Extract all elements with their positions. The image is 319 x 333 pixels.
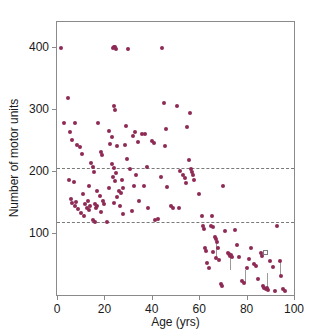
data-point [123,143,127,147]
data-point [125,157,129,161]
data-point [171,206,175,210]
data-point [221,184,225,188]
data-point [115,195,119,199]
data-point [223,229,227,233]
data-point [67,178,71,182]
data-point [93,220,97,224]
data-point [162,101,166,105]
data-point [215,240,219,244]
data-point-open [263,250,268,255]
data-point [81,192,85,196]
data-point [175,104,179,108]
data-point [78,145,82,149]
data-point [256,277,260,281]
data-point [230,255,234,259]
x-axis-tick-label: 80 [240,302,253,316]
data-point [128,167,132,171]
data-point [235,243,239,247]
data-point [112,166,116,170]
data-point [275,224,279,228]
y-axis-tick [52,233,57,234]
data-point [82,214,86,218]
data-point [92,170,96,174]
data-point [74,200,78,204]
data-point [80,152,84,156]
data-point [184,181,188,185]
data-point [160,46,164,50]
data-point [66,96,70,100]
data-point [115,144,119,148]
data-point [70,138,74,142]
data-point [249,246,253,250]
data-point [124,124,128,128]
x-axis-tick [104,295,105,300]
x-axis-tick-label: 0 [54,302,61,316]
data-point [266,288,270,292]
data-point [247,257,251,261]
data-point [110,135,114,139]
data-point [113,179,117,183]
data-point [118,204,122,208]
data-point [143,132,147,136]
data-point [210,214,214,218]
data-point [211,225,215,229]
data-point [105,220,109,224]
x-axis-tick-label: 100 [284,302,304,316]
data-point [211,250,215,254]
scatter-plot-figure: 100200300400020406080100 Age (yrs) Numbe… [0,0,319,333]
data-point [254,264,258,268]
data-point [136,140,140,144]
data-point [188,111,192,115]
data-point [159,175,163,179]
data-point [273,289,277,293]
data-point [142,184,146,188]
data-point [132,184,136,188]
y-axis-tick [52,47,57,48]
data-point [237,255,241,259]
data-point [164,127,168,131]
x-axis-tick [294,295,295,300]
data-point [204,249,208,253]
y-axis-tick-label: 400 [29,40,49,54]
data-point [185,125,189,129]
data-point [113,108,117,112]
x-axis-tick-label: 40 [145,302,158,316]
data-point [62,121,66,125]
plot-frame: 100200300400020406080100 [56,21,295,296]
data-point [220,284,224,288]
data-point [102,202,106,206]
data-point [200,214,204,218]
data-point [112,201,116,205]
data-point [86,199,90,203]
data-point [191,173,195,177]
data-point [108,142,112,146]
data-point [121,186,125,190]
data-point [152,141,156,145]
x-axis-tick-label: 20 [98,302,111,316]
data-point [271,265,275,269]
data-point [217,258,221,262]
plot-area [57,22,294,295]
data-point [121,212,125,216]
data-point [183,176,187,180]
data-point [233,228,237,232]
data-point [133,130,137,134]
data-point [202,227,206,231]
data-point [278,259,282,263]
data-point [137,199,141,203]
data-point [114,171,118,175]
x-axis-label: Age (yrs) [56,315,295,329]
data-point [156,217,160,221]
data-point [165,185,169,189]
data-point [119,191,123,195]
x-axis-tick-label: 60 [193,302,206,316]
data-point [279,274,283,278]
data-point [72,180,76,184]
y-axis-tick [52,109,57,110]
data-point [207,266,211,270]
data-point [131,134,135,138]
data-point [95,204,99,208]
data-point [192,178,196,182]
y-axis-label: Number of motor units [7,99,21,218]
data-point [130,209,134,213]
